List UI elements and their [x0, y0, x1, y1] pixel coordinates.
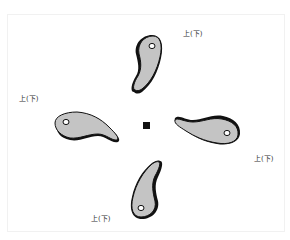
- label-left: 上(下): [19, 93, 38, 103]
- bottom-piece: [126, 157, 166, 223]
- center-square-marker: [143, 122, 150, 129]
- label-bottom: 上(下): [91, 213, 110, 223]
- label-right: 上(下): [254, 153, 273, 163]
- label-top: 上(下): [183, 28, 202, 38]
- top-piece: [128, 32, 168, 98]
- right-piece: [171, 112, 243, 148]
- left-piece: [52, 110, 124, 146]
